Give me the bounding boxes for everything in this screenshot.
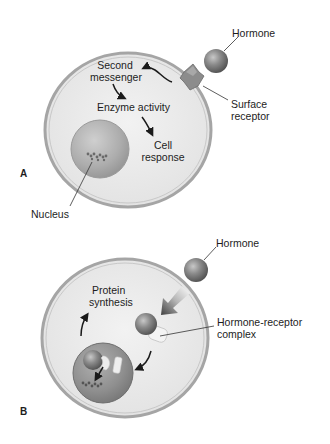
label-surface-receptor-line1: Surface bbox=[231, 98, 270, 110]
label-second-messenger-line2: messenger bbox=[90, 71, 140, 83]
label-protein-synthesis-line2: synthesis bbox=[89, 296, 133, 308]
label-hormone-receptor-complex-line2: complex bbox=[217, 328, 302, 340]
label-second-messenger: Second messenger bbox=[90, 59, 140, 83]
nucleus-b bbox=[73, 343, 133, 403]
panel-letter-a: A bbox=[20, 168, 27, 179]
label-cell-response: Cell response bbox=[138, 139, 188, 163]
label-hormone-b: Hormone bbox=[216, 237, 259, 249]
label-hormone-receptor-complex-line1: Hormone-receptor bbox=[217, 316, 302, 328]
label-protein-synthesis-line1: Protein bbox=[89, 284, 133, 296]
label-surface-receptor-line2: receptor bbox=[231, 110, 270, 122]
label-hormone-a: Hormone bbox=[232, 27, 275, 39]
bound-hormone-icon bbox=[135, 313, 157, 335]
panel-a bbox=[45, 37, 238, 207]
label-hormone-receptor-complex: Hormone-receptor complex bbox=[217, 316, 302, 340]
nucleus-a bbox=[71, 120, 129, 178]
label-second-messenger-line1: Second bbox=[90, 59, 140, 71]
panel-b bbox=[42, 247, 216, 417]
label-enzyme-activity: Enzyme activity bbox=[97, 101, 170, 113]
label-cell-response-line1: Cell bbox=[138, 139, 188, 151]
label-protein-synthesis: Protein synthesis bbox=[89, 284, 133, 308]
label-cell-response-line2: response bbox=[138, 151, 188, 163]
label-nucleus: Nucleus bbox=[31, 208, 69, 220]
hormone-a-icon bbox=[204, 49, 228, 73]
diagram-canvas bbox=[0, 0, 330, 444]
label-surface-receptor: Surface receptor bbox=[231, 98, 270, 122]
hormone-b-icon bbox=[184, 258, 208, 282]
panel-letter-b: B bbox=[20, 406, 27, 417]
